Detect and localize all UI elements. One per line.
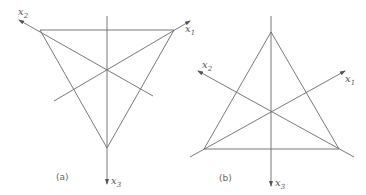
caption-b: (b) <box>219 173 232 183</box>
label-x1-a: x1 <box>185 23 195 37</box>
label-x1-b: x1 <box>345 73 355 87</box>
axis-x2-b <box>198 71 354 157</box>
label-x3-a: x3 <box>111 175 122 189</box>
panel-a: x2 x1 x3 (a) <box>18 6 195 189</box>
triangle-axes-figure: x2 x1 x3 (a) x2 x1 x3 (b) <box>0 0 366 195</box>
label-x3-b: x3 <box>275 177 286 191</box>
label-x2-a: x2 <box>18 6 29 20</box>
triangle-b <box>204 32 339 149</box>
axis-x2-a <box>19 20 153 96</box>
caption-a: (a) <box>56 172 69 182</box>
axis-x1-a <box>54 21 190 101</box>
axis-x1-b <box>190 71 345 157</box>
panel-b: x2 x1 x3 (b) <box>190 16 355 191</box>
label-x2-b: x2 <box>202 59 213 73</box>
